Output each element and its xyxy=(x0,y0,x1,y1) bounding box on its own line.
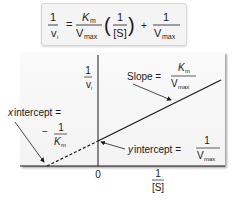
svg-text:1: 1 xyxy=(85,65,91,76)
svg-text:1: 1 xyxy=(50,11,56,23)
svg-text:1: 1 xyxy=(58,122,64,133)
svg-text:m: m xyxy=(61,142,66,148)
svg-text:V: V xyxy=(154,27,162,39)
svg-text:y: y xyxy=(127,144,134,155)
x-intercept-annotation: x intercept = − 1 K m xyxy=(7,107,67,162)
svg-text:V: V xyxy=(171,78,178,89)
svg-text:=: = xyxy=(66,18,72,30)
svg-text:K: K xyxy=(82,11,90,23)
svg-text:V: V xyxy=(76,27,84,39)
paren-right: ) xyxy=(128,14,135,36)
svg-text:−: − xyxy=(42,126,48,137)
svg-text:max: max xyxy=(204,156,215,162)
svg-text:1: 1 xyxy=(163,11,169,23)
svg-text:Slope =: Slope = xyxy=(127,71,161,82)
svg-text:m: m xyxy=(185,68,190,74)
lineweaver-burk-diagram: 1 v i = K m V max ( 1 [S] ) + 1 V max 1 … xyxy=(0,0,232,204)
x-axis-label: 1 [S] xyxy=(152,168,164,193)
svg-text:[S]: [S] xyxy=(113,27,126,39)
y-intercept-annotation: y intercept = 1 V max xyxy=(101,135,220,162)
svg-text:max: max xyxy=(84,33,98,40)
svg-text:1: 1 xyxy=(155,168,161,179)
svg-text:1: 1 xyxy=(204,135,210,146)
svg-text:V: V xyxy=(197,150,204,161)
svg-text:[S]: [S] xyxy=(152,182,164,193)
svg-text:x: x xyxy=(7,107,14,118)
equation: 1 v i = K m V max ( 1 [S] ) + 1 V max xyxy=(48,11,180,40)
data-line-solid xyxy=(98,80,221,141)
paren-left: ( xyxy=(104,14,111,36)
svg-text:i: i xyxy=(57,34,58,40)
svg-text:intercept =: intercept = xyxy=(14,107,61,118)
svg-text:intercept =: intercept = xyxy=(134,144,181,155)
y-axis-label: 1 v i xyxy=(84,65,92,91)
svg-text:max: max xyxy=(162,33,176,40)
origin-label: 0 xyxy=(95,169,101,180)
svg-text:max: max xyxy=(178,84,189,90)
svg-text:i: i xyxy=(91,85,92,91)
svg-text:m: m xyxy=(90,17,96,24)
svg-text:+: + xyxy=(141,20,147,31)
svg-text:1: 1 xyxy=(117,11,123,23)
slope-annotation: Slope = K m V max xyxy=(127,62,196,100)
